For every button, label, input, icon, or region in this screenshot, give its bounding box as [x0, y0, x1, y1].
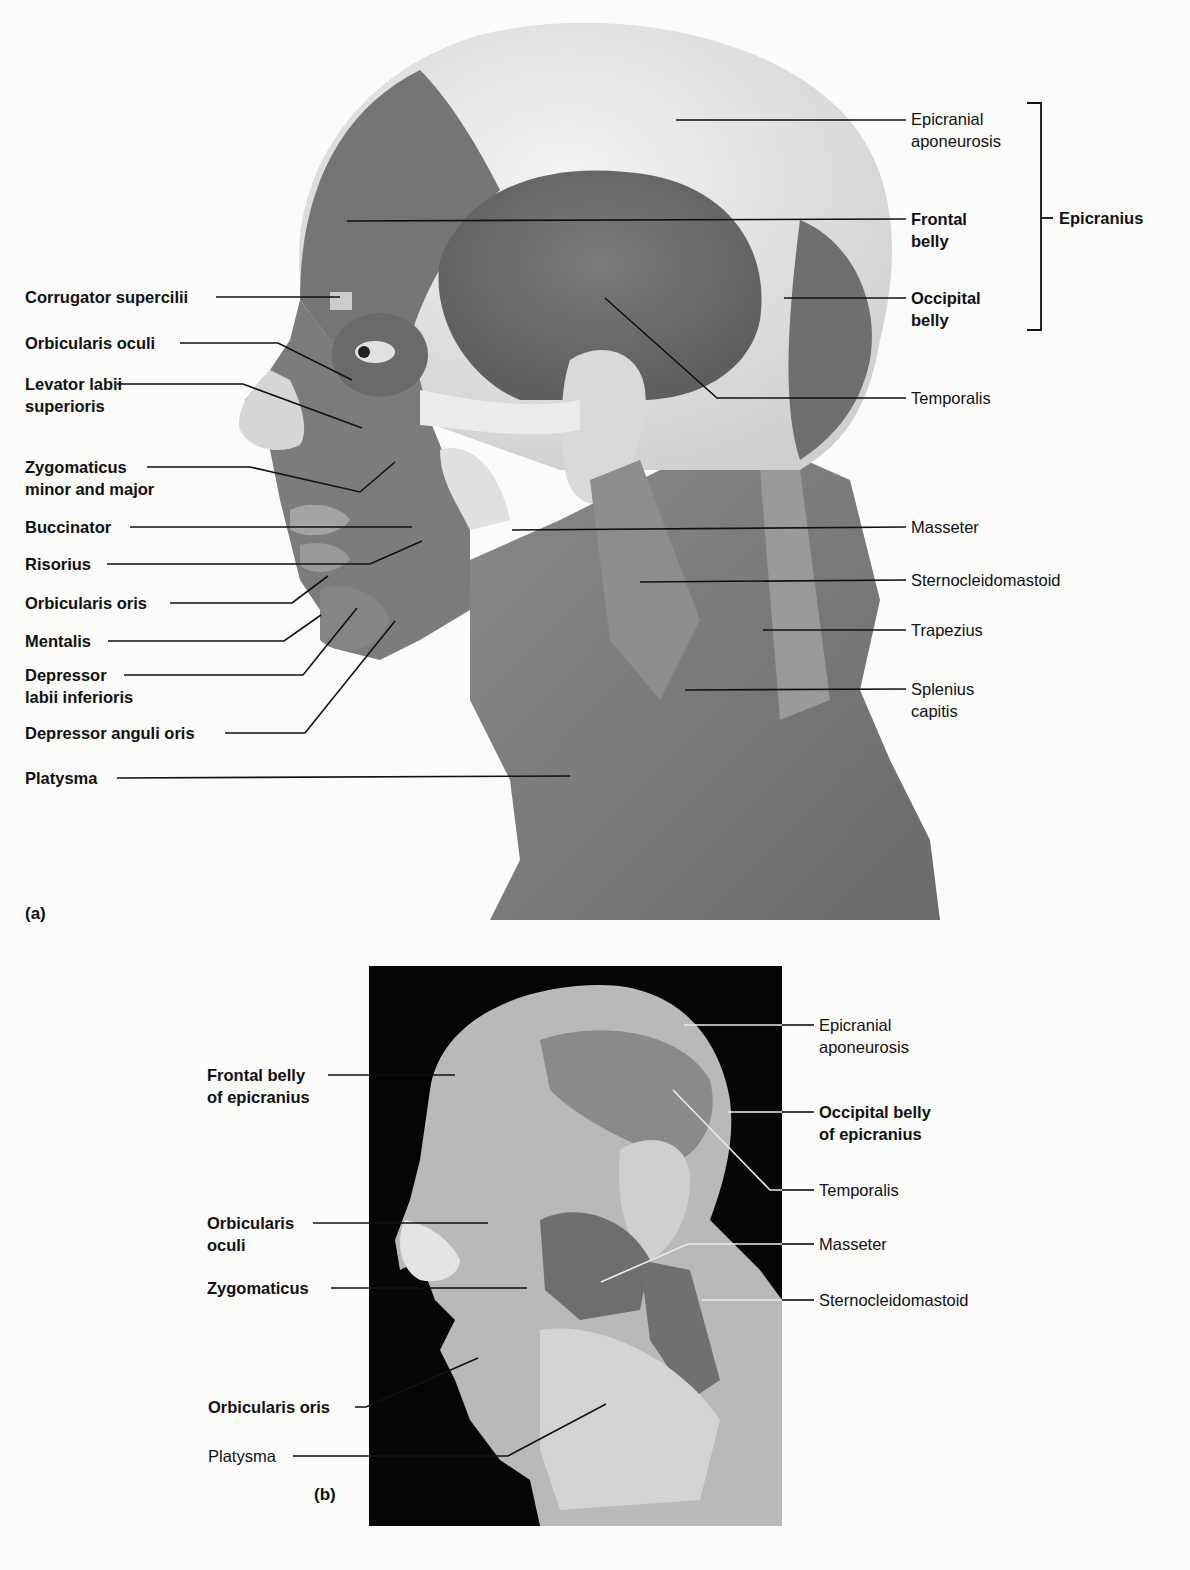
label-b-zygomaticus: Zygomaticus — [207, 1277, 309, 1299]
label-buccinator: Buccinator — [25, 516, 111, 538]
panel-a-illustration: Corrugator supercilii Orbicularis oculi … — [0, 0, 1190, 950]
label-masseter: Masseter — [911, 516, 979, 538]
label-platysma: Platysma — [25, 767, 97, 789]
panel-b-tag: (b) — [314, 1485, 336, 1505]
label-b-orbicularis-oris: Orbicularis oris — [208, 1396, 330, 1418]
label-corrugator-supercilii: Corrugator supercilii — [25, 286, 188, 308]
label-risorius: Risorius — [25, 553, 91, 575]
label-b-epicranial-aponeurosis: Epicranialaponeurosis — [819, 1014, 909, 1058]
epicranius-bracket — [1027, 103, 1053, 330]
leader-lines-b-right-outer — [782, 1025, 814, 1300]
panel-a-tag: (a) — [25, 904, 46, 924]
label-temporalis: Temporalis — [911, 387, 991, 409]
label-orbicularis-oris: Orbicularis oris — [25, 592, 147, 614]
label-frontal-belly: Frontalbelly — [911, 208, 967, 252]
label-b-orbicularis-oculi: Orbicularisoculi — [207, 1212, 294, 1256]
label-b-occipital-belly: Occipital bellyof epicranius — [819, 1101, 931, 1145]
label-trapezius: Trapezius — [911, 619, 983, 641]
label-b-temporalis: Temporalis — [819, 1179, 899, 1201]
label-occipital-belly: Occipitalbelly — [911, 287, 981, 331]
label-zygomaticus-minor-major: Zygomaticusminor and major — [25, 456, 154, 500]
label-depressor-labii-inferioris: Depressorlabii inferioris — [25, 664, 133, 708]
head-muscle-illustration — [0, 0, 1190, 950]
label-mentalis: Mentalis — [25, 630, 91, 652]
label-b-masseter: Masseter — [819, 1233, 887, 1255]
label-levator-labii-superioris: Levator labiisuperioris — [25, 373, 122, 417]
panel-b-photo: Frontal bellyof epicranius Orbicularisoc… — [0, 950, 1190, 1570]
label-orbicularis-oculi: Orbicularis oculi — [25, 332, 155, 354]
label-b-frontal-belly: Frontal bellyof epicranius — [207, 1064, 310, 1108]
label-splenius-capitis: Spleniuscapitis — [911, 678, 974, 722]
cadaver-photo — [0, 950, 1190, 1570]
label-epicranial-aponeurosis: Epicranialaponeurosis — [911, 108, 1001, 152]
label-b-platysma: Platysma — [208, 1445, 276, 1467]
label-b-sternocleidomastoid: Sternocleidomastoid — [819, 1289, 969, 1311]
label-sternocleidomastoid: Sternocleidomastoid — [911, 569, 1061, 591]
label-depressor-anguli-oris: Depressor anguli oris — [25, 722, 195, 744]
label-epicranius: Epicranius — [1059, 207, 1143, 229]
